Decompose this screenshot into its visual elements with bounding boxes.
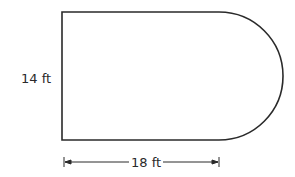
composite-shape-diagram: [0, 0, 295, 177]
height-label: 14 ft: [21, 72, 51, 85]
width-label: 18 ft: [129, 156, 163, 169]
rectangle-with-semicircle-outline: [62, 12, 283, 140]
arrowhead-right-icon: [212, 160, 218, 164]
arrowhead-left-icon: [65, 160, 71, 164]
